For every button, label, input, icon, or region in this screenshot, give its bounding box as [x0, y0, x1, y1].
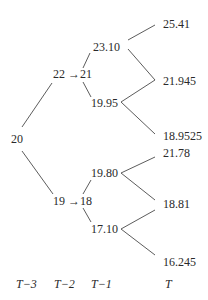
time-label-t: T: [165, 278, 172, 290]
node-ddd: 16.245: [163, 256, 196, 268]
node-uud: 21.945: [163, 75, 196, 87]
edge-du-duu: [121, 157, 155, 173]
node-dd: 17.10: [91, 223, 118, 235]
edge-up-ud: [83, 82, 91, 97]
time-label-t-minus-2: T−2: [54, 278, 75, 290]
edge-uu-uud: [128, 49, 155, 80]
time-label-t-minus-1: T−1: [91, 278, 112, 290]
node-ud: 19.95: [91, 97, 118, 109]
node-dud: 18.81: [163, 198, 190, 210]
edge-uu-uuu: [128, 25, 155, 40]
edge-du-dud: [121, 173, 155, 200]
edge-dd-ddd: [121, 229, 155, 255]
edge-down-du: [83, 180, 91, 194]
node-udd: 18.9525: [163, 130, 202, 142]
node-du: 19.80: [91, 167, 118, 179]
edge-ud-udd: [121, 102, 155, 134]
node-down: 19 →18: [53, 195, 92, 207]
edge-down-dd: [83, 208, 91, 222]
edge-root-up: [22, 83, 52, 127]
node-uu: 23.10: [93, 41, 120, 53]
node-up: 22 →21: [53, 68, 92, 80]
edge-up-uu: [83, 53, 90, 68]
node-duu: 21.78: [163, 147, 190, 159]
node-uuu: 25.41: [163, 18, 190, 30]
time-label-t-minus-3: T−3: [16, 278, 37, 290]
edge-ud-uud: [121, 80, 155, 102]
edge-dd-dud: [121, 210, 155, 229]
node-root: 20: [11, 133, 23, 145]
edge-root-down: [22, 151, 53, 194]
